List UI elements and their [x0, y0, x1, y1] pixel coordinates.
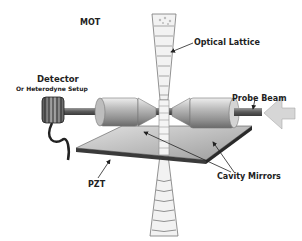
optical-lattice-lower — [150, 155, 178, 236]
label-detector: Detector — [37, 74, 79, 84]
optical-lattice-upper — [152, 14, 176, 100]
optical-cavity-diagram: MOT Optical Lattice Detector Or Heterody… — [0, 0, 302, 241]
cavity-mirror-left — [95, 98, 156, 126]
cavity-mirror-right — [172, 98, 239, 128]
label-probe-beam: Probe Beam — [232, 94, 287, 103]
probe-input-rod — [234, 108, 262, 116]
optical-lattice-center — [159, 100, 169, 155]
detector-icon — [42, 97, 69, 160]
label-optical-lattice: Optical Lattice — [194, 38, 260, 47]
label-mot: MOT — [80, 18, 100, 27]
label-pzt: PZT — [88, 180, 105, 189]
diagram-canvas — [0, 0, 302, 241]
label-cavity-mirrors: Cavity Mirrors — [217, 172, 281, 181]
label-heterodyne-setup: Or Heterodyne Setup — [16, 85, 88, 92]
